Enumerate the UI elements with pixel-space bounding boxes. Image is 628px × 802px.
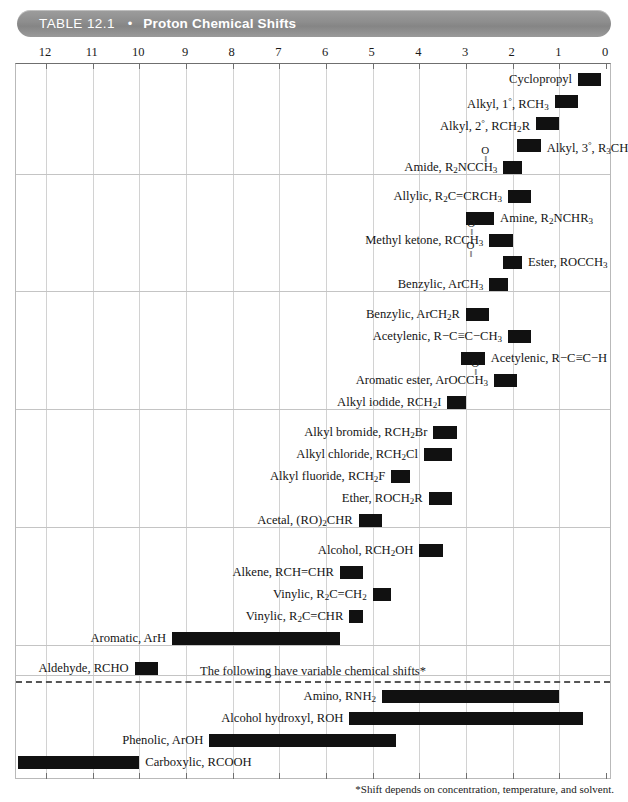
shift-row-label: Acetylenic, R−C≡C−CH3 [373, 326, 508, 348]
shift-row: Cyclopropyl [16, 69, 610, 91]
shift-range-bar [466, 308, 489, 321]
shift-row: Alkyl, 3°, R3CH [16, 135, 610, 157]
carbonyl-oxygen-glyph: O‖ [481, 145, 489, 164]
shift-range-bar [503, 161, 522, 174]
shift-row: Aromatic ester, ArOCCH3O‖ [16, 370, 610, 392]
carbonyl-oxygen-glyph: O‖ [471, 358, 479, 377]
shift-row: Allylic, R2C=CRCH3 [16, 186, 610, 208]
shift-row: Ester, ROCCH3O‖ [16, 252, 610, 274]
shift-row: Amine, R2NCHR3 [16, 208, 610, 230]
shift-range-bar [18, 756, 139, 769]
axis-tick-10: 10 [132, 44, 145, 60]
shift-row: Alcohol hydroxyl, ROH [16, 708, 610, 730]
shift-row-label: Cyclopropyl [509, 69, 578, 91]
shift-row: Alkyl, 2°, RCH2R [16, 113, 610, 135]
section-divider [16, 645, 610, 646]
shift-row-label: Benzylic, ArCH2R [366, 304, 466, 326]
shift-range-bar [349, 610, 363, 623]
table-number: TABLE 12.1 [39, 16, 115, 31]
shift-row-label: Alkyl, 3°, R3CH [541, 135, 628, 157]
axis-tick-3: 3 [462, 44, 468, 60]
shift-row: Vinylic, R2C=CHR [16, 606, 610, 628]
axis-tick-5: 5 [369, 44, 375, 60]
shift-row-label: Phenolic, ArOH [122, 730, 209, 752]
shift-range-bar [494, 374, 517, 387]
shift-range-bar [433, 426, 456, 439]
shift-range-bar [419, 544, 442, 557]
shift-row: Alkyl iodide, RCH2I [16, 392, 610, 414]
shift-row-label: Alkyl, 1°, RCH3 [467, 91, 555, 113]
axis-tick-1: 1 [555, 44, 561, 60]
table-title: Proton Chemical Shifts [143, 16, 296, 31]
shift-row: Amide, R2NCCH3O‖ [16, 157, 610, 179]
shift-row-label: Alkyl bromide, RCH2Br [304, 422, 433, 444]
shift-row: Benzylic, ArCH2R [16, 304, 610, 326]
section-divider [16, 174, 610, 175]
shift-range-bar [391, 470, 410, 483]
variable-shift-note: The following have variable chemical shi… [16, 664, 610, 679]
shift-row-label: Vinylic, R2C=CHR [246, 606, 350, 628]
shift-range-bar [349, 712, 582, 725]
shift-row-label: Benzylic, ArCH3 [398, 274, 490, 296]
axis-tick-12: 12 [39, 44, 52, 60]
shift-row: Alcohol, RCH2OH [16, 540, 610, 562]
shift-range-bar [424, 448, 452, 461]
variable-shift-divider [16, 681, 610, 683]
shift-row-label: Ether, ROCH2R [342, 488, 429, 510]
axis-tick-6: 6 [322, 44, 328, 60]
shift-row-label: Amine, R2NCHR3 [494, 208, 593, 230]
shift-range-bar [517, 139, 540, 152]
table-header-bar: TABLE 12.1 • Proton Chemical Shifts [17, 10, 611, 37]
shift-row: Ether, ROCH2R [16, 488, 610, 510]
shift-range-bar [429, 492, 452, 505]
shift-row-label: Alcohol hydroxyl, ROH [221, 708, 349, 730]
shift-range-bar [373, 588, 392, 601]
shift-row-label: Aromatic, ArH [90, 628, 172, 650]
ppm-axis-labels: 1211109876543210 [0, 44, 628, 60]
header-separator-dot: • [128, 16, 133, 31]
shift-row-label: Amino, RNH2 [304, 686, 382, 708]
axis-tick-11: 11 [86, 44, 98, 60]
section-divider [16, 527, 610, 528]
shift-row-label: Alcohol, RCH2OH [318, 540, 420, 562]
shift-row-label: Alkyl chloride, RCH2Cl [296, 444, 424, 466]
shift-row: Amino, RNH2 [16, 686, 610, 708]
carbonyl-oxygen-glyph: O‖ [467, 218, 475, 237]
shift-row: Benzylic, ArCH3 [16, 274, 610, 296]
shift-row: Phenolic, ArOH [16, 730, 610, 752]
shift-range-bar [555, 95, 578, 108]
carbonyl-oxygen-glyph: O‖ [466, 240, 474, 259]
shift-row: Alkyl fluoride, RCH2F [16, 466, 610, 488]
shift-row-label: Alkene, RCH=CHR [232, 562, 340, 584]
shift-row-label: Alkyl fluoride, RCH2F [270, 466, 391, 488]
shift-row: Acetylenic, R−C≡C−H [16, 348, 610, 370]
shift-range-bar [172, 632, 340, 645]
shift-row-label: Carboxylic, RCOOH [139, 752, 251, 774]
axis-tick-7: 7 [275, 44, 281, 60]
axis-tick-0: 0 [602, 44, 608, 60]
shift-row: Alkyl, 1°, RCH3 [16, 91, 610, 113]
shift-range-bar [578, 73, 601, 86]
shift-range-bar [503, 256, 522, 269]
shift-row: Aromatic, ArH [16, 628, 610, 650]
shift-range-bar [447, 396, 466, 409]
axis-tick-8: 8 [229, 44, 235, 60]
shift-range-bar [382, 690, 559, 703]
section-divider [16, 409, 610, 410]
shift-range-bar [209, 734, 396, 747]
shift-range-bar [536, 117, 559, 130]
shift-row-label: Ester, ROCCH3 [522, 252, 608, 274]
shift-row: Vinylic, R2C=CH2 [16, 584, 610, 606]
shift-range-bar [359, 514, 382, 527]
chemical-shift-chart: CyclopropylAlkyl, 1°, RCH3Alkyl, 2°, RCH… [15, 63, 611, 779]
shift-range-bar [508, 330, 531, 343]
shift-row-label: Acetylenic, R−C≡C−H [485, 348, 607, 370]
axis-tick-2: 2 [509, 44, 515, 60]
shift-range-bar [340, 566, 363, 579]
shift-range-bar [508, 190, 531, 203]
shift-row: Alkyl chloride, RCH2Cl [16, 444, 610, 466]
shift-row: Alkyl bromide, RCH2Br [16, 422, 610, 444]
axis-tick-9: 9 [182, 44, 188, 60]
shift-row-label: Alkyl iodide, RCH2I [337, 392, 447, 414]
shift-range-bar [489, 234, 512, 247]
